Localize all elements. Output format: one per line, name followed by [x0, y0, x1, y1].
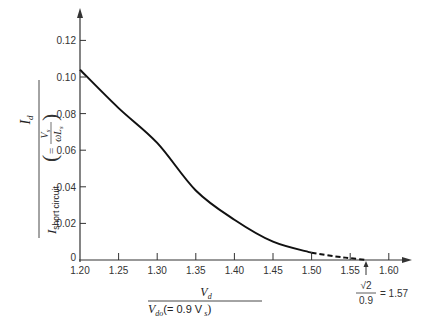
y-axis-label: Id Ishort circuit ( = Vs ωLs ) [18, 80, 65, 238]
x-tick-label: 1.20 [70, 265, 90, 276]
chart: 00.020.040.060.080.100.12 1.201.251.301.… [0, 0, 422, 325]
y-axis-arrow-icon [77, 8, 83, 18]
x-label-numerator: Vd [200, 285, 212, 301]
y-tick-label: 0.10 [57, 72, 77, 83]
left-paren: ( [37, 155, 62, 162]
x-label-denominator: Vdo(= 0.9 Vs) [148, 302, 211, 318]
annotation-numerator: √2 [360, 280, 371, 291]
x-tick-label: 1.30 [147, 265, 167, 276]
y-tick-label: 0 [70, 252, 76, 263]
x-tick-label: 1.35 [186, 265, 206, 276]
up-arrow-icon [364, 261, 369, 267]
curve-dashed [312, 253, 366, 260]
right-paren: ) [37, 114, 62, 121]
x-tick-label: 1.45 [263, 265, 283, 276]
x-tick-label: 1.25 [109, 265, 129, 276]
y-tick-label: 0.06 [57, 145, 77, 156]
curve-solid [80, 70, 312, 253]
y-label-denominator: Ishort circuit [44, 186, 61, 235]
x-tick-label: 1.40 [225, 265, 245, 276]
annotation-denominator: 0.9 [359, 295, 373, 306]
y-label-numerator: Id [18, 115, 35, 126]
y-label-paren-denominator: ωLs [52, 126, 65, 142]
equals-sign: = [45, 148, 57, 154]
x-tick-label: 1.55 [340, 265, 360, 276]
y-tick-label: 0.12 [57, 35, 77, 46]
annotation-value: = 1.57 [380, 288, 409, 299]
y-label-paren-numerator: Vs [39, 129, 52, 138]
x-axis-arrow-icon [402, 257, 412, 263]
x-tick-label: 1.60 [379, 265, 399, 276]
x-ticks: 1.201.251.301.351.401.451.501.551.60 [70, 253, 399, 276]
x-tick-label: 1.50 [302, 265, 322, 276]
x-axis-label: Vd Vdo(= 0.9 Vs) [148, 285, 262, 318]
